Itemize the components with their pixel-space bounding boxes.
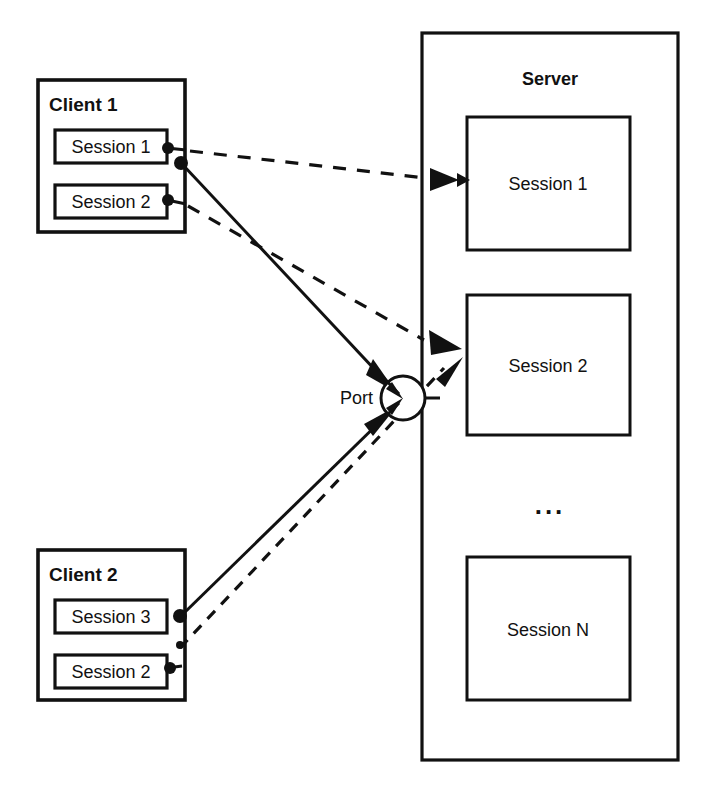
server-session-label-2: Session 2 xyxy=(508,356,587,376)
link-client1-session2-to-server-session2 xyxy=(188,206,424,340)
client-2-session-2-endpoint-dot xyxy=(164,662,176,674)
client-2-session-label-2: Session 2 xyxy=(71,662,150,682)
network-diagram-svg: Server Session 1 Session 2 ... Session N… xyxy=(0,0,718,785)
port-label: Port xyxy=(340,388,373,408)
server-session-label-1: Session 1 xyxy=(508,174,587,194)
client-2-title: Client 2 xyxy=(49,564,118,585)
server-session-label-n: Session N xyxy=(507,620,589,640)
client-1-session-label-1: Session 1 xyxy=(71,137,150,157)
link-client1-session1-to-server-session1 xyxy=(190,151,425,178)
server-title: Server xyxy=(522,69,578,89)
link-client2-session3-to-port-solid xyxy=(182,409,393,615)
link-client1-to-port-solid xyxy=(183,165,392,388)
client-1-session-2-endpoint-dot xyxy=(162,194,174,206)
client-1-session-1-endpoint-dot xyxy=(162,142,174,154)
client-1-title: Client 1 xyxy=(49,94,118,115)
client-1-session-label-2: Session 2 xyxy=(71,192,150,212)
client-2-session-label-3: Session 3 xyxy=(71,607,150,627)
diagram-canvas: Server Session 1 Session 2 ... Session N… xyxy=(0,0,718,785)
server-sessions-ellipsis: ... xyxy=(535,490,566,520)
